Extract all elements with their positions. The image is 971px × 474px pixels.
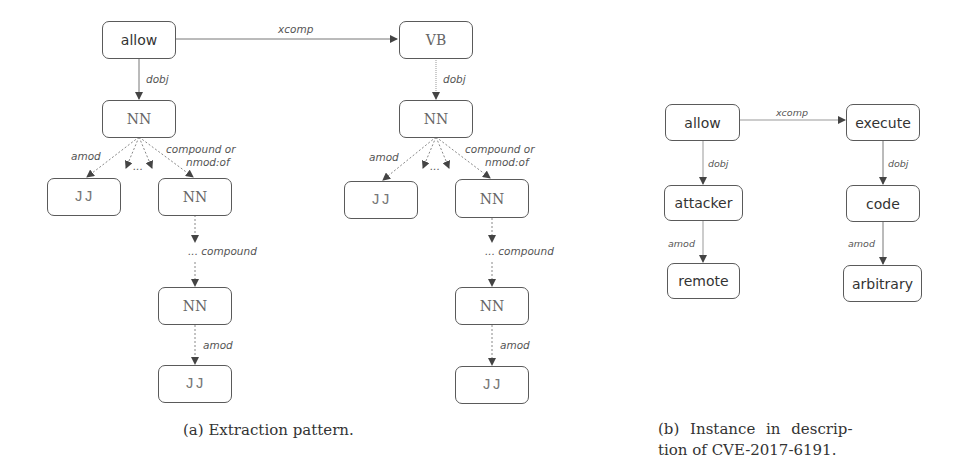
node-arbitrary-b: arbitrary <box>843 265 922 302</box>
node-allow-b: allow <box>665 104 740 141</box>
caption-b-line1: (b) Instance in descrip- <box>658 419 852 439</box>
node-jj-a-right: JJ <box>344 181 418 219</box>
label-xcomp-a: xcomp <box>278 23 313 35</box>
label-dobj-b-left: dobj <box>708 158 729 170</box>
label-ellipsis-a-right: ... <box>430 160 440 172</box>
node-vb-a: VB <box>399 21 473 59</box>
node-remote-b: remote <box>667 263 740 299</box>
label-compound-a-right: ... compound <box>485 245 554 257</box>
node-allow-a: allow <box>102 21 176 59</box>
node-jj-a-left: JJ <box>47 178 121 216</box>
caption-a: (a) Extraction pattern. <box>183 420 354 440</box>
node-nn-mid-a-right: NN <box>455 179 529 218</box>
label-compound-a-left: ... compound <box>188 245 257 257</box>
label-amod-a-right: amod <box>369 151 399 163</box>
node-nn-a-right: NN <box>399 100 473 138</box>
label-dobj-a-right: dobj <box>443 73 466 85</box>
label-ellipsis-a-left: ... <box>133 160 143 172</box>
caption-b-line2: tion of CVE-2017-6191. <box>658 440 836 460</box>
node-jj-low-a-right: JJ <box>455 366 529 404</box>
label-xcomp-b: xcomp <box>776 107 808 119</box>
label-amod-b-left: amod <box>668 238 695 250</box>
label-dobj-b-right: dobj <box>888 158 909 170</box>
node-nn-a-left: NN <box>102 100 176 138</box>
label-amod-low-a-left: amod <box>203 339 233 351</box>
label-dobj-a-left: dobj <box>146 73 169 85</box>
node-nn-low-a-left: NN <box>158 287 232 325</box>
label-compound-or-a-right: compound or <box>465 143 535 155</box>
label-amod-a-left: amod <box>71 150 101 162</box>
label-amod-low-a-right: amod <box>500 339 530 351</box>
label-amod-b-right: amod <box>848 238 875 250</box>
node-nn-mid-a-left: NN <box>158 178 232 216</box>
label-compound-or-a-left: compound or <box>166 143 236 155</box>
node-execute-b: execute <box>846 104 920 141</box>
node-attacker-b: attacker <box>664 185 743 221</box>
node-code-b: code <box>846 185 920 222</box>
dependency-figure: allow NN JJ NN NN JJ VB NN JJ NN NN JJ x… <box>0 0 971 474</box>
node-nn-low-a-right: NN <box>455 287 529 325</box>
label-nmod-of-a-right: nmod:of <box>485 156 529 168</box>
node-jj-low-a-left: JJ <box>158 365 232 403</box>
label-nmod-of-a-left: nmod:of <box>186 156 230 168</box>
